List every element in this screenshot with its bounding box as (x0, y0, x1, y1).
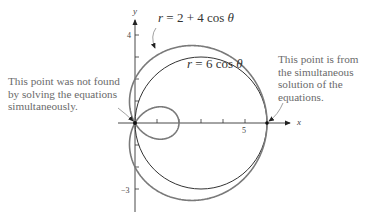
x-tick-label-5: 5 (242, 126, 246, 135)
y-axis-label: y (133, 6, 137, 16)
x-ticks (157, 119, 245, 123)
right-annotation-line-1: This point is from (278, 53, 359, 66)
x-axis-label: x (297, 117, 301, 127)
right-annotation-arrow (269, 103, 283, 121)
left-annotation-line-2: by solving the equations (8, 88, 120, 101)
intersection-point (265, 121, 269, 125)
circle-equation-label: r r = 6 cos θ= 6 cos θ (187, 56, 243, 72)
left-annotation: This point was not found by solving the … (8, 75, 120, 113)
right-annotation: This point is from the simultaneous solu… (278, 53, 359, 103)
right-annotation-line-2: the simultaneous (278, 66, 359, 79)
right-annotation-line-4: equations. (278, 91, 359, 104)
left-annotation-line-3: simultaneously. (8, 100, 120, 113)
limacon-label-arrow (153, 28, 156, 48)
limacon-equation-label: r r = 2 + 4 cos θ= 2 + 4 cos θ (158, 10, 234, 26)
y-tick-label-4: 4 (127, 31, 131, 40)
y-tick-label-neg3: −3 (121, 186, 130, 195)
origin-point (133, 121, 137, 125)
right-annotation-line-3: solution of the (278, 78, 359, 91)
left-annotation-line-1: This point was not found (8, 75, 120, 88)
